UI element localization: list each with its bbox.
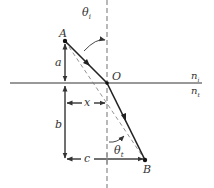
label-theta-i: θi bbox=[82, 6, 91, 21]
label-a-point: A bbox=[58, 27, 67, 40]
label-dist-b: b bbox=[55, 118, 62, 131]
refraction-diagram: A O B a b x c θi θt ni nt bbox=[0, 0, 214, 188]
label-n-incident: ni bbox=[191, 70, 199, 83]
label-dist-a: a bbox=[55, 56, 62, 69]
straight-path-dashed bbox=[65, 41, 145, 160]
label-dist-x: x bbox=[84, 96, 91, 109]
label-dist-c: c bbox=[84, 152, 90, 165]
theta-i-arc bbox=[84, 40, 105, 51]
label-o-point: O bbox=[112, 70, 121, 83]
label-theta-t: θt bbox=[114, 144, 124, 159]
label-n-transmitted: nt bbox=[191, 85, 200, 98]
theta-t-arc bbox=[109, 136, 124, 142]
point-b-dot bbox=[143, 158, 147, 162]
point-o-dot bbox=[105, 81, 109, 85]
label-b-point: B bbox=[142, 163, 151, 176]
